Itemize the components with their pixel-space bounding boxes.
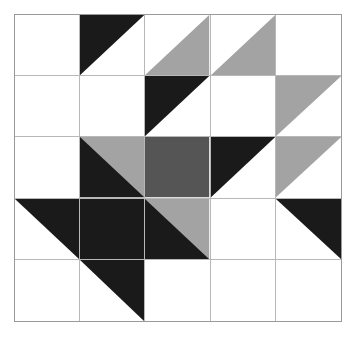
cell-r1c3 [145,15,210,76]
patch-square [276,260,341,321]
cell-r3c4 [211,137,276,198]
cell-r4c5 [276,199,341,260]
cell-r2c2 [80,76,145,137]
cell-r5c4 [211,260,276,321]
cell-r1c4 [211,15,276,76]
cell-r5c3 [145,260,210,321]
patch-square [15,260,79,321]
patch-square [276,15,341,75]
patch-square [80,199,144,259]
cell-r3c5 [276,137,341,198]
cell-r3c3 [145,137,210,198]
cell-r4c2 [80,199,145,260]
cell-r4c4 [211,199,276,260]
quilt-block-figure [0,0,354,341]
cell-r1c2 [80,15,145,76]
cell-r3c1 [15,137,80,198]
cell-r2c4 [211,76,276,137]
patch-square [211,260,275,321]
cell-r5c5 [276,260,341,321]
cell-r3c2 [80,137,145,198]
patch-square [211,76,275,136]
patch-square [80,76,144,136]
cell-r1c5 [276,15,341,76]
cell-r2c1 [15,76,80,137]
cell-r4c3 [145,199,210,260]
patch-square [145,260,209,321]
patch-square [15,76,79,136]
patch-square [15,15,79,75]
quilt-grid [14,14,342,322]
cell-r2c3 [145,76,210,137]
patch-square [15,137,79,197]
cell-r5c1 [15,260,80,321]
cell-r1c1 [15,15,80,76]
cell-r4c1 [15,199,80,260]
patch-square [145,137,209,197]
cell-r5c2 [80,260,145,321]
cell-r2c5 [276,76,341,137]
patch-square [211,199,275,259]
